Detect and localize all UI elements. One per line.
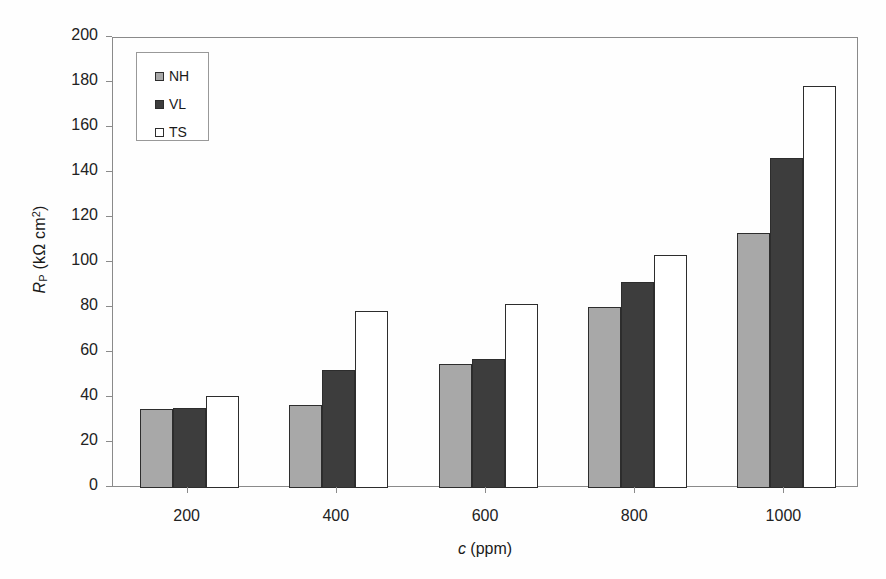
bar-ts-600 xyxy=(505,304,538,489)
y-tick-label: 140 xyxy=(40,161,98,179)
legend-item-nh[interactable]: NH xyxy=(155,69,189,83)
bar-nh-200 xyxy=(140,409,173,488)
x-tick-label: 600 xyxy=(440,507,530,525)
y-tick-label: 160 xyxy=(40,116,98,134)
x-tick-mark xyxy=(336,487,337,493)
x-tick-mark xyxy=(634,487,635,493)
y-tick-label: 20 xyxy=(40,431,98,449)
bar-ts-1000 xyxy=(803,86,836,488)
x-tick-mark xyxy=(187,487,188,493)
x-tick-mark xyxy=(485,487,486,493)
legend: NHVLTS xyxy=(136,52,209,141)
legend-item-vl[interactable]: VL xyxy=(155,97,186,111)
bar-vl-1000 xyxy=(770,158,803,488)
x-tick-mark xyxy=(783,487,784,493)
bar-vl-800 xyxy=(621,282,654,488)
y-tick-label: 200 xyxy=(40,26,98,44)
bar-nh-1000 xyxy=(737,233,770,488)
y-tick-label: 80 xyxy=(40,296,98,314)
x-axis-unit: (ppm) xyxy=(470,540,512,557)
y-tick-label: 60 xyxy=(40,341,98,359)
x-tick-label: 200 xyxy=(142,507,232,525)
bar-ts-800 xyxy=(654,255,687,488)
x-axis-title: c (ppm) xyxy=(112,540,858,558)
bar-chart: RP (kΩ cm2) 020406080100120140160180200 … xyxy=(0,0,886,579)
y-tick-label: 120 xyxy=(40,206,98,224)
legend-item-ts[interactable]: TS xyxy=(155,125,187,139)
plot-area xyxy=(112,37,858,487)
x-tick-label: 800 xyxy=(589,507,679,525)
legend-swatch-icon xyxy=(155,128,164,137)
y-axis-subscript: P xyxy=(37,274,49,282)
bar-vl-400 xyxy=(322,370,355,488)
legend-label: NH xyxy=(169,69,189,83)
x-axis-symbol: c xyxy=(458,540,466,557)
bar-nh-600 xyxy=(439,364,472,488)
bar-nh-400 xyxy=(289,405,322,488)
bar-ts-200 xyxy=(206,396,239,488)
y-axis-symbol: R xyxy=(31,282,48,294)
y-tick-label: 180 xyxy=(40,71,98,89)
y-tick-label: 0 xyxy=(40,476,98,494)
bar-vl-200 xyxy=(173,408,206,488)
bar-ts-400 xyxy=(355,311,388,488)
legend-swatch-icon xyxy=(155,100,164,109)
legend-swatch-icon xyxy=(155,72,164,81)
bar-vl-600 xyxy=(472,359,505,488)
y-tick-label: 40 xyxy=(40,386,98,404)
legend-label: VL xyxy=(169,97,186,111)
y-tick-label: 100 xyxy=(40,251,98,269)
x-tick-label: 400 xyxy=(291,507,381,525)
x-tick-label: 1000 xyxy=(738,507,828,525)
legend-label: TS xyxy=(169,125,187,139)
bar-nh-800 xyxy=(588,307,621,488)
